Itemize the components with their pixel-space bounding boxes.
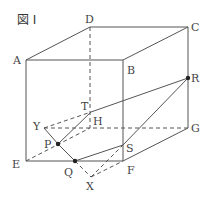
dashed-QX <box>75 161 91 177</box>
label-H: H <box>93 115 103 128</box>
dashed-XF <box>91 161 123 177</box>
label-Y: Y <box>32 120 41 133</box>
label-S: S <box>126 142 134 155</box>
edge-AD <box>26 27 90 60</box>
label-C: C <box>191 21 199 34</box>
label-A: A <box>12 54 22 67</box>
edge-BC <box>123 27 188 60</box>
point-Q <box>73 159 77 163</box>
cube-diagram: 図 I A B C D E F G H R T Y P Q X S <box>0 0 215 208</box>
segment-RS <box>123 78 188 145</box>
label-X: X <box>86 180 94 193</box>
figure-title: 図 I <box>17 13 36 27</box>
label-T: T <box>81 100 89 113</box>
label-Q: Q <box>64 166 73 179</box>
label-R: R <box>191 72 200 85</box>
label-G: G <box>191 122 200 135</box>
label-B: B <box>127 64 135 77</box>
label-D: D <box>85 13 94 26</box>
diagram-canvas: 図 I A B C D E F G H R T Y P Q X S <box>0 0 215 208</box>
point-P <box>56 142 60 146</box>
label-E: E <box>12 158 20 171</box>
point-R <box>186 76 190 80</box>
segment-PQ <box>58 144 75 161</box>
segment-RT <box>91 78 188 112</box>
label-P: P <box>44 138 52 151</box>
dashed-YT <box>44 112 91 128</box>
segment-QS <box>75 145 123 161</box>
label-F: F <box>127 164 135 177</box>
